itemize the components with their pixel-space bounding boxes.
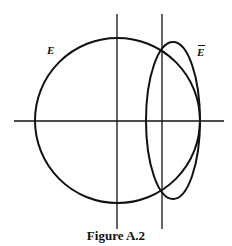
ellipse-label-text: E xyxy=(197,46,204,58)
ellipse-label-e-bar: E xyxy=(197,46,204,58)
figure-a2: E E Figure A.2 xyxy=(0,0,232,246)
circle-label-e: E xyxy=(47,44,54,56)
overbar-accent xyxy=(198,45,205,46)
diagram-canvas xyxy=(0,0,232,246)
figure-caption: Figure A.2 xyxy=(0,228,232,244)
